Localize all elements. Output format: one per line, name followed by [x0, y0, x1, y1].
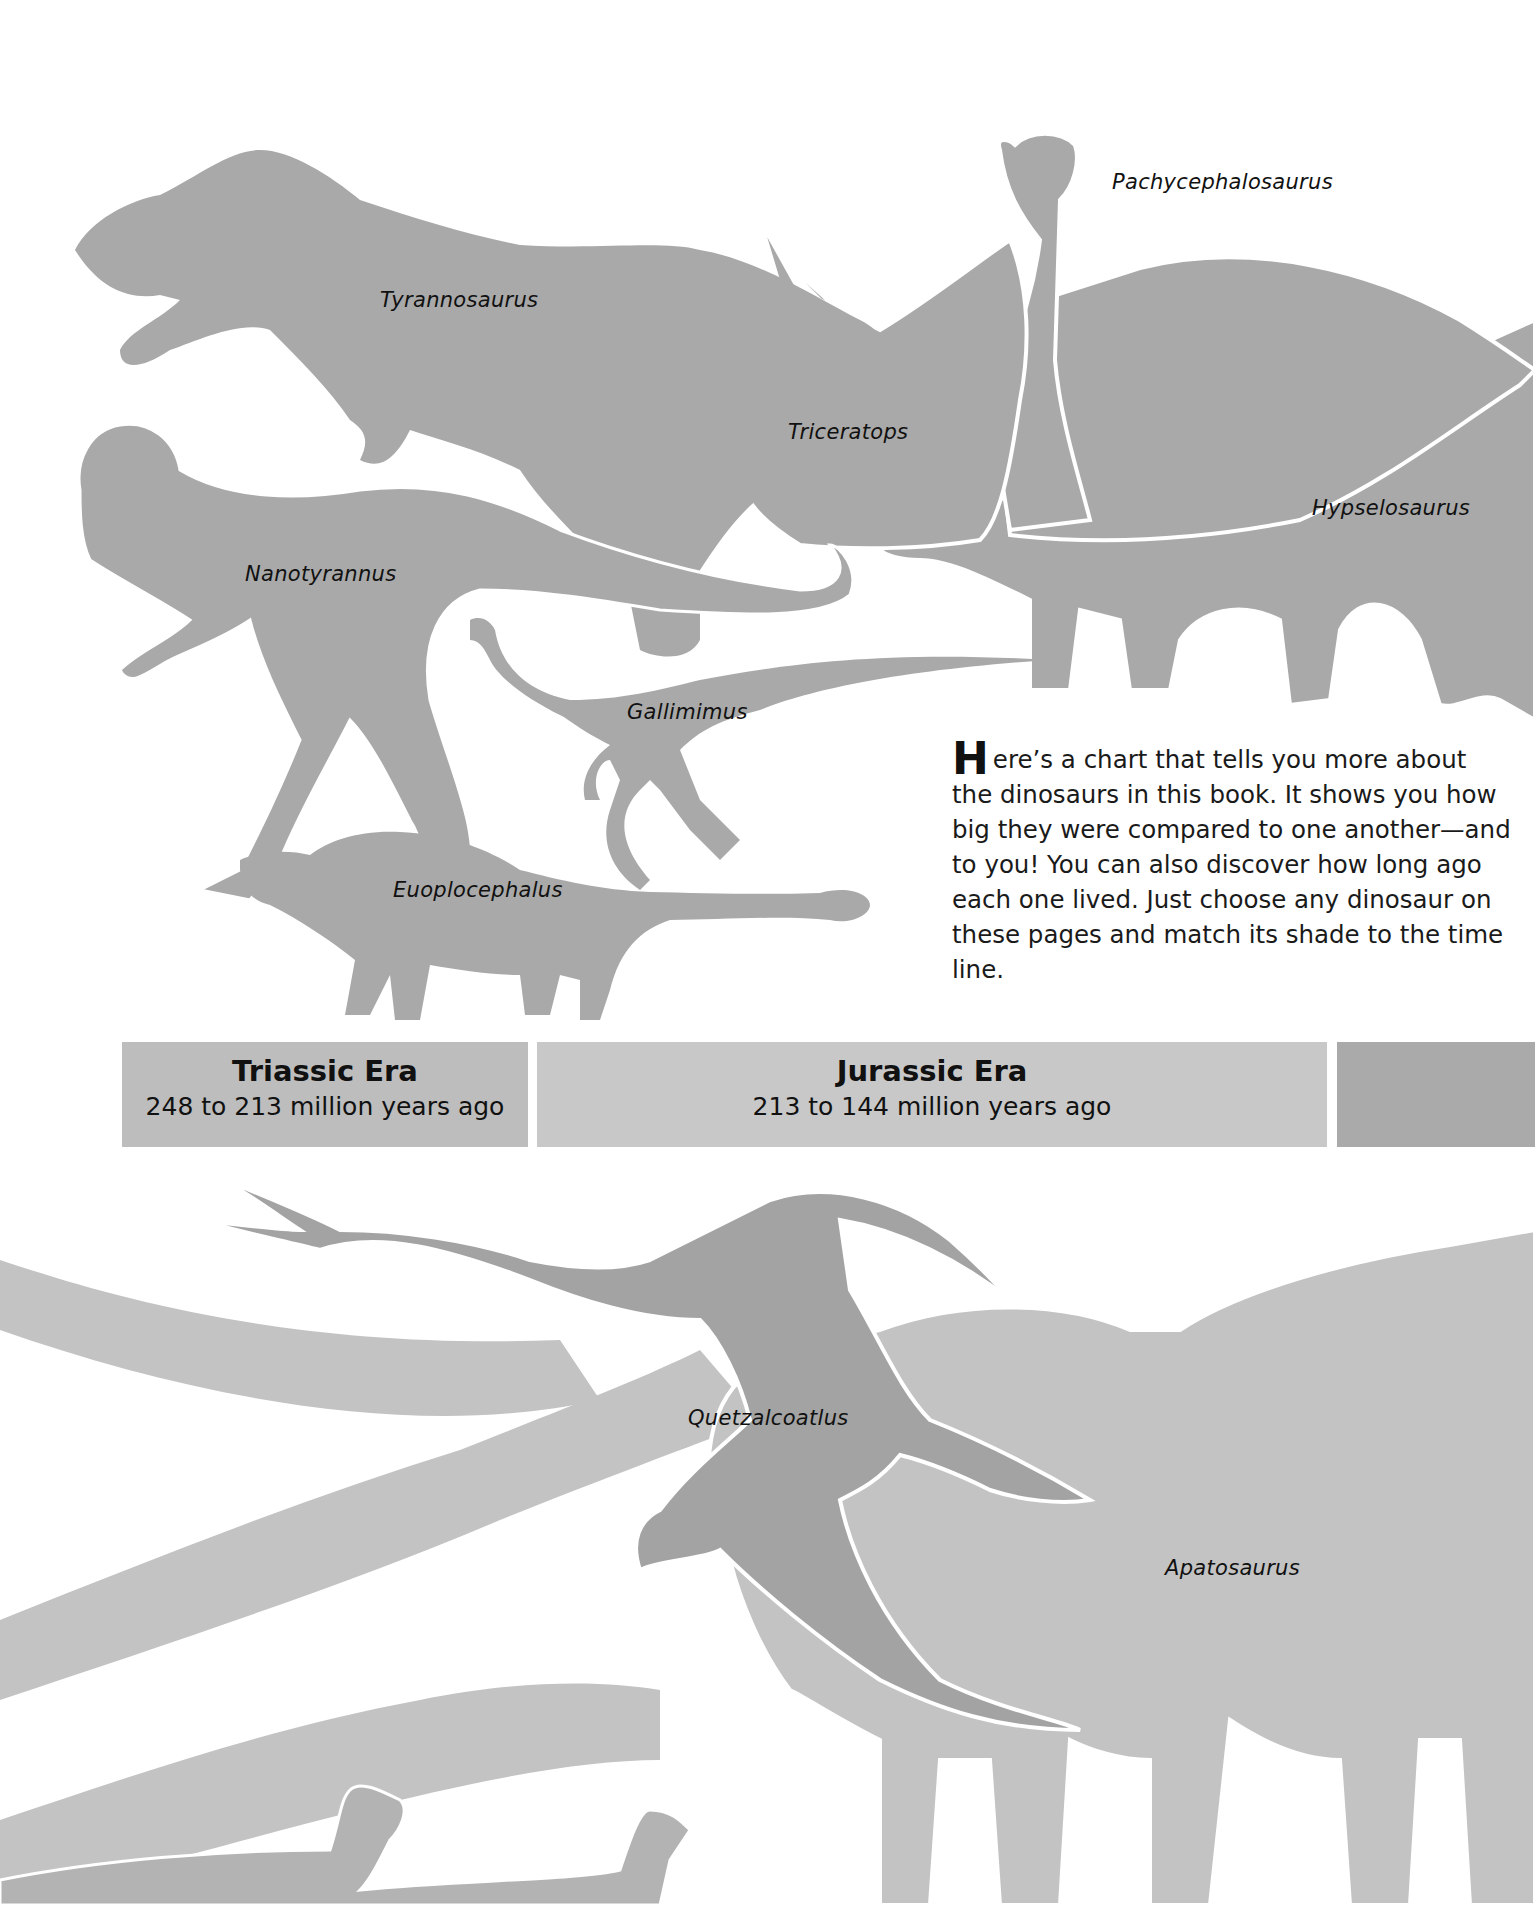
era-range: 248 to 213 million years ago	[122, 1092, 528, 1121]
era-name: Triassic Era	[122, 1054, 528, 1088]
era-triassic: Triassic Era 248 to 213 million years ag…	[122, 1042, 528, 1147]
label-quetzalcoatlus: Quetzalcoatlus	[688, 1406, 849, 1430]
label-pachycephalosaurus: Pachycephalosaurus	[1112, 170, 1333, 194]
era-jurassic: Jurassic Era 213 to 144 million years ag…	[537, 1042, 1327, 1147]
label-tyrannosaurus: Tyrannosaurus	[380, 288, 538, 312]
label-gallimimus: Gallimimus	[627, 700, 748, 724]
era-range: 213 to 144 million years ago	[537, 1092, 1327, 1121]
era-name: Jurassic Era	[537, 1054, 1327, 1088]
label-nanotyrannus: Nanotyrannus	[245, 562, 396, 586]
euoplocephalus-silhouette	[240, 832, 870, 1020]
intro-paragraph: Here’s a chart that tells you more about…	[952, 742, 1512, 987]
label-euoplocephalus: Euoplocephalus	[393, 878, 563, 902]
label-triceratops: Triceratops	[788, 420, 908, 444]
intro-text: ere’s a chart that tells you more about …	[952, 745, 1511, 984]
era-cretaceous-partial	[1337, 1042, 1535, 1147]
label-hypselosaurus: Hypselosaurus	[1312, 496, 1470, 520]
drop-cap: H	[952, 744, 989, 774]
label-apatosaurus: Apatosaurus	[1165, 1556, 1300, 1580]
